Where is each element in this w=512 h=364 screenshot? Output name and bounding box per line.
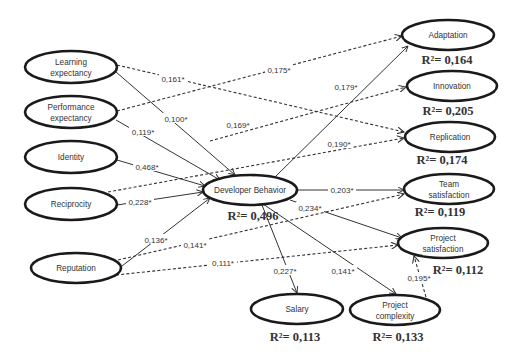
construct-ellipse [404,174,494,204]
construct-label: complexity [376,312,416,321]
r-squared-label: R²= 0,113 [270,330,320,344]
coefficient-text: 0,136* [144,236,167,245]
coefficient-text: 0,169* [226,121,249,130]
path-coefficient-label: 0,100* [162,113,190,124]
path-coefficient-label: 0,228* [126,196,154,207]
r-squared-label: R²= 0,496 [227,209,278,223]
arrow-line [210,87,406,141]
construct-label: expectancy [50,69,92,78]
path-identity-to-innovation [210,87,406,141]
coefficient-text: 0,468* [135,163,158,172]
construct-ellipse [398,228,488,258]
construct-node-performance: Performanceexpectancy [25,96,117,128]
construct-node-identity: Identity [25,141,117,173]
r-squared-label: R²= 0,112 [433,263,483,277]
construct-label: Adaptation [428,31,468,40]
path-coefficient-label: 0,195* [405,272,433,283]
construct-label: Innovation [433,82,471,91]
coefficient-text: 0,195* [407,274,430,283]
r-squared-label: R²= 0,119 [415,205,465,219]
construct-label: satisfaction [429,191,470,200]
sem-diagram: LearningexpectancyPerformanceexpectancyI… [0,0,512,364]
path-coefficient-label: 0,111* [209,257,237,268]
construct-node-reciprocity: Reciprocity [25,188,117,220]
construct-node-projcomp: Projectcomplexity [350,295,440,325]
arrow-line [275,46,408,177]
path-coefficient-label: 0,175* [265,64,293,75]
construct-node-adaptation: Adaptation [402,20,494,50]
arrow-line [116,72,235,175]
coefficient-text: 0,179* [334,83,357,92]
r-squared-label: R²= 0,205 [422,104,473,118]
path-coefficient-label: 0,119* [129,126,157,137]
path-coefficient-label: 0,136* [142,234,170,245]
construct-label: Performance [48,103,95,112]
r-squared-label: R²= 0,174 [416,153,468,167]
path-coefficient-label: 0,234* [296,202,324,213]
coefficient-text: 0,111* [212,259,234,268]
path-coefficient-label: 0,141* [329,265,357,276]
path-developer-to-adaptation [275,46,408,177]
path-coefficient-label: 0,169* [224,119,252,130]
coefficient-text: 0,141* [331,267,354,276]
construct-label: Developer Behavior [214,186,286,195]
construct-ellipse [25,96,117,128]
coefficient-text: 0,119* [132,128,155,137]
construct-label: Learning [55,58,87,67]
coefficient-text: 0,234* [298,204,321,213]
construct-node-projsat: Projectsatisfaction [398,228,488,258]
path-coefficient-label: 0,203* [328,184,356,195]
construct-label: Project [430,234,456,243]
construct-label: Team [439,180,459,189]
path-coefficient-label: 0,227* [271,265,299,276]
construct-ellipse [350,295,440,325]
path-coefficient-label: 0,468* [133,161,161,172]
coefficient-text: 0,175* [267,66,290,75]
coefficient-text: 0,203* [330,186,353,195]
construct-node-developer: Developer Behavior [203,175,297,205]
construct-node-salary: Salary [251,294,343,324]
construct-node-innovation: Innovation [407,71,497,101]
coefficient-text: 0,228* [128,198,151,207]
construct-label: expectancy [50,114,92,123]
path-coefficient-label: 0,179* [332,81,360,92]
coefficient-text: 0,227* [273,267,296,276]
path-learning-to-developer [116,72,235,175]
path-coefficient-label: 0,141* [181,239,209,250]
construct-label: Identity [58,153,85,162]
construct-node-reputation: Reputation [31,253,121,283]
construct-ellipse [25,51,117,83]
r-squared-label: R²= 0,133 [372,330,423,344]
construct-label: Reputation [56,264,96,273]
construct-node-learning: Learningexpectancy [25,51,117,83]
construct-node-replication: Replication [405,122,495,152]
arrow-line [263,204,396,294]
construct-label: satisfaction [423,245,464,254]
r-squared-label: R²= 0,164 [421,53,473,67]
path-coefficient-label: 0,190* [325,138,353,149]
construct-label: Reciprocity [51,200,92,209]
construct-label: Replication [430,133,471,142]
path-developer-to-projcomp [263,204,396,294]
coefficient-text: 0,141* [183,241,206,250]
coefficient-text: 0,161* [161,75,184,84]
construct-label: Salary [285,305,309,314]
coefficient-text: 0,100* [164,115,187,124]
construct-label: Project [382,301,408,310]
construct-node-team: Teamsatisfaction [404,174,494,204]
coefficient-text: 0,190* [327,140,350,149]
path-coefficient-label: 0,161* [159,73,187,84]
